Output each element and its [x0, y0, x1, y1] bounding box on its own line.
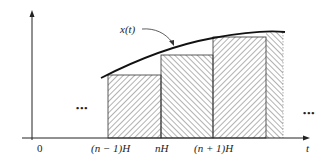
label-pointer: [142, 29, 172, 42]
y-axis-arrow-icon: [30, 10, 35, 17]
sample-rectangles: [108, 32, 283, 139]
label-pointer-arrow-icon: [169, 40, 174, 46]
diagram-canvas: [0, 0, 336, 157]
rect-n-plus-1: [213, 37, 266, 138]
tick-label-n: nH: [155, 143, 168, 154]
curve-label: x(t): [120, 24, 135, 35]
x-axis-arrow-icon: [303, 136, 310, 141]
x-axis-label: t: [306, 143, 309, 154]
tick-label-n-plus-1: (n + 1)H: [194, 143, 233, 154]
ellipsis-right: •••: [303, 109, 315, 118]
ellipsis-left: •••: [76, 104, 88, 113]
tick-label-n-minus-1: (n − 1)H: [91, 143, 130, 154]
origin-label: 0: [37, 143, 43, 154]
tail-region: [266, 32, 283, 139]
rect-n: [161, 55, 213, 138]
rect-n-minus-1: [108, 75, 161, 138]
